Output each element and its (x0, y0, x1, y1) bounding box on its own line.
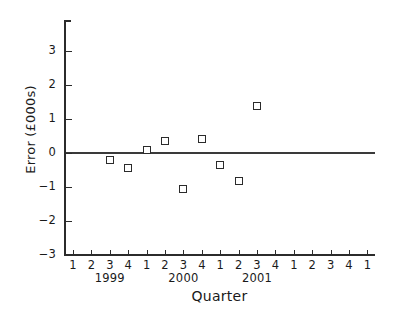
data-point-marker (235, 177, 243, 185)
data-point-marker (106, 156, 114, 164)
x-tick-mark (183, 250, 184, 255)
x-tick-mark (220, 250, 221, 255)
x-tick-mark (73, 250, 74, 255)
y-tick-mark (66, 153, 72, 154)
zero-reference-line (66, 152, 375, 154)
x-tick-mark (331, 250, 332, 255)
y-axis-top-cap (64, 20, 71, 22)
x-tick-label: 1 (355, 259, 379, 271)
data-point-marker (124, 164, 132, 172)
data-point-marker (253, 102, 261, 110)
x-tick-mark (312, 250, 313, 255)
x-tick-mark (110, 250, 111, 255)
x-tick-mark (165, 250, 166, 255)
data-point-marker (216, 161, 224, 169)
x-tick-mark (349, 250, 350, 255)
y-tick-mark (66, 255, 72, 256)
y-tick-label: −3 (8, 249, 56, 260)
data-point-marker (198, 135, 206, 143)
error-scatter-chart: 3210−1−2−3 12341234123412341 19992000200… (0, 0, 412, 313)
y-axis-title: Error (£000s) (23, 30, 38, 230)
y-tick-mark (66, 119, 72, 120)
x-tick-mark (294, 250, 295, 255)
x-tick-mark (257, 250, 258, 255)
x-year-label: 2001 (227, 272, 287, 284)
x-tick-mark (367, 250, 368, 255)
data-point-marker (161, 137, 169, 145)
x-year-label: 1999 (80, 272, 140, 284)
x-tick-mark (275, 250, 276, 255)
data-point-marker (179, 185, 187, 193)
y-tick-mark (66, 221, 72, 222)
x-tick-mark (239, 250, 240, 255)
y-tick-mark (66, 187, 72, 188)
data-point-marker (143, 146, 151, 154)
x-axis-title: Quarter (64, 288, 375, 304)
x-year-label: 2000 (153, 272, 213, 284)
x-tick-mark (91, 250, 92, 255)
x-tick-mark (202, 250, 203, 255)
y-tick-mark (66, 51, 72, 52)
x-tick-mark (147, 250, 148, 255)
x-tick-mark (128, 250, 129, 255)
y-tick-mark (66, 85, 72, 86)
